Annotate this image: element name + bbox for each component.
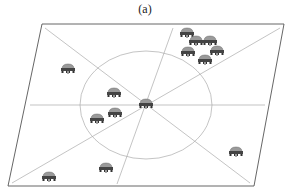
robot-icon (180, 28, 194, 38)
robot-icon (181, 47, 195, 57)
robot-icon (139, 99, 153, 109)
robot-icon (203, 36, 217, 46)
robot-icon (42, 172, 56, 182)
robot-icon (198, 55, 212, 65)
robot-icon (61, 64, 75, 74)
swarm-diagram (0, 0, 290, 195)
robot-icon (108, 108, 122, 118)
robot-icon (229, 147, 243, 157)
robot-icon (107, 88, 121, 98)
robot-icon (90, 114, 104, 124)
robot-icon (189, 36, 203, 46)
robot-icon (99, 163, 113, 173)
robot-icon (210, 46, 224, 56)
